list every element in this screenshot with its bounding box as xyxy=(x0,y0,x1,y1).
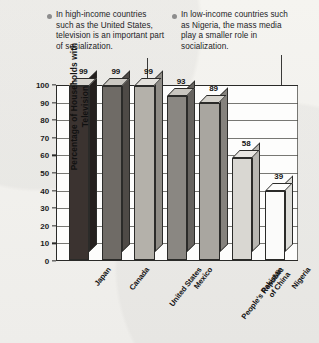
y-axis-tick-mark xyxy=(52,190,56,191)
callout-low-income: In low-income countries such as Nigeria,… xyxy=(172,10,292,52)
y-axis-title: Percentage of Households with Television xyxy=(69,22,90,192)
bar-face xyxy=(199,103,219,260)
y-axis-tick-mark xyxy=(52,102,56,103)
bar-pakistan xyxy=(232,158,252,260)
y-axis-tick-mark xyxy=(52,243,56,244)
y-axis-tick-label: 50 xyxy=(40,169,49,178)
x-axis-label: Canada xyxy=(128,266,151,292)
bar-face xyxy=(265,191,285,260)
bar-nigeria xyxy=(265,191,285,260)
bar-face xyxy=(167,96,187,260)
y-axis-tick-label: 100 xyxy=(36,81,49,90)
callout-high-income: In high-income countries such as the Uni… xyxy=(47,10,165,52)
y-axis-tick-label: 80 xyxy=(40,116,49,125)
bar-mexico xyxy=(167,96,187,260)
y-axis-tick-mark xyxy=(52,208,56,209)
y-axis-tick-mark xyxy=(52,225,56,226)
bar-face xyxy=(102,86,122,260)
x-axis-label: Nigeria xyxy=(290,266,312,291)
y-axis-tick-label: 30 xyxy=(40,204,49,213)
y-axis-tick-label: 40 xyxy=(40,186,49,195)
bar-side xyxy=(252,142,260,252)
x-axis-label: People's Republicof China xyxy=(240,266,292,326)
bar-face xyxy=(232,158,252,260)
chart-plot-area: 99999993895839 xyxy=(56,85,298,261)
y-axis-tick-mark xyxy=(52,155,56,156)
y-axis-tick-mark xyxy=(52,137,56,138)
bar-people-s-republic-of-china xyxy=(199,103,219,260)
bar-value-label: 99 xyxy=(128,67,168,76)
bar-value-label: 89 xyxy=(194,84,234,93)
bar-side xyxy=(187,81,195,252)
y-axis-tick-label: 20 xyxy=(40,221,49,230)
y-axis-tick-label: 90 xyxy=(40,98,49,107)
bar-side xyxy=(122,70,130,252)
bar-side xyxy=(89,70,97,252)
bar-united-states xyxy=(134,86,154,260)
y-axis-tick-mark xyxy=(52,84,56,85)
y-axis-tick-mark xyxy=(52,172,56,173)
bar-face xyxy=(134,86,154,260)
callout-low-income-text: In low-income countries such as Nigeria,… xyxy=(181,10,292,52)
y-axis-tick-label: 60 xyxy=(40,151,49,160)
annotation-callouts: In high-income countries such as the Uni… xyxy=(0,0,319,62)
bar-value-label: 58 xyxy=(226,139,266,148)
y-axis-tick-mark xyxy=(52,260,56,261)
bullet-icon xyxy=(172,14,177,19)
y-axis-tick-label: 70 xyxy=(40,133,49,142)
bar-side xyxy=(155,70,163,252)
bar-canada xyxy=(102,86,122,260)
y-axis-tick-label: 0 xyxy=(45,257,49,266)
y-axis-tick-mark xyxy=(52,120,56,121)
x-axis-label: Japan xyxy=(94,266,114,288)
bar-value-label: 39 xyxy=(259,172,299,181)
bullet-icon xyxy=(47,14,52,19)
y-axis-tick-label: 10 xyxy=(40,239,49,248)
bar-side xyxy=(220,88,228,252)
